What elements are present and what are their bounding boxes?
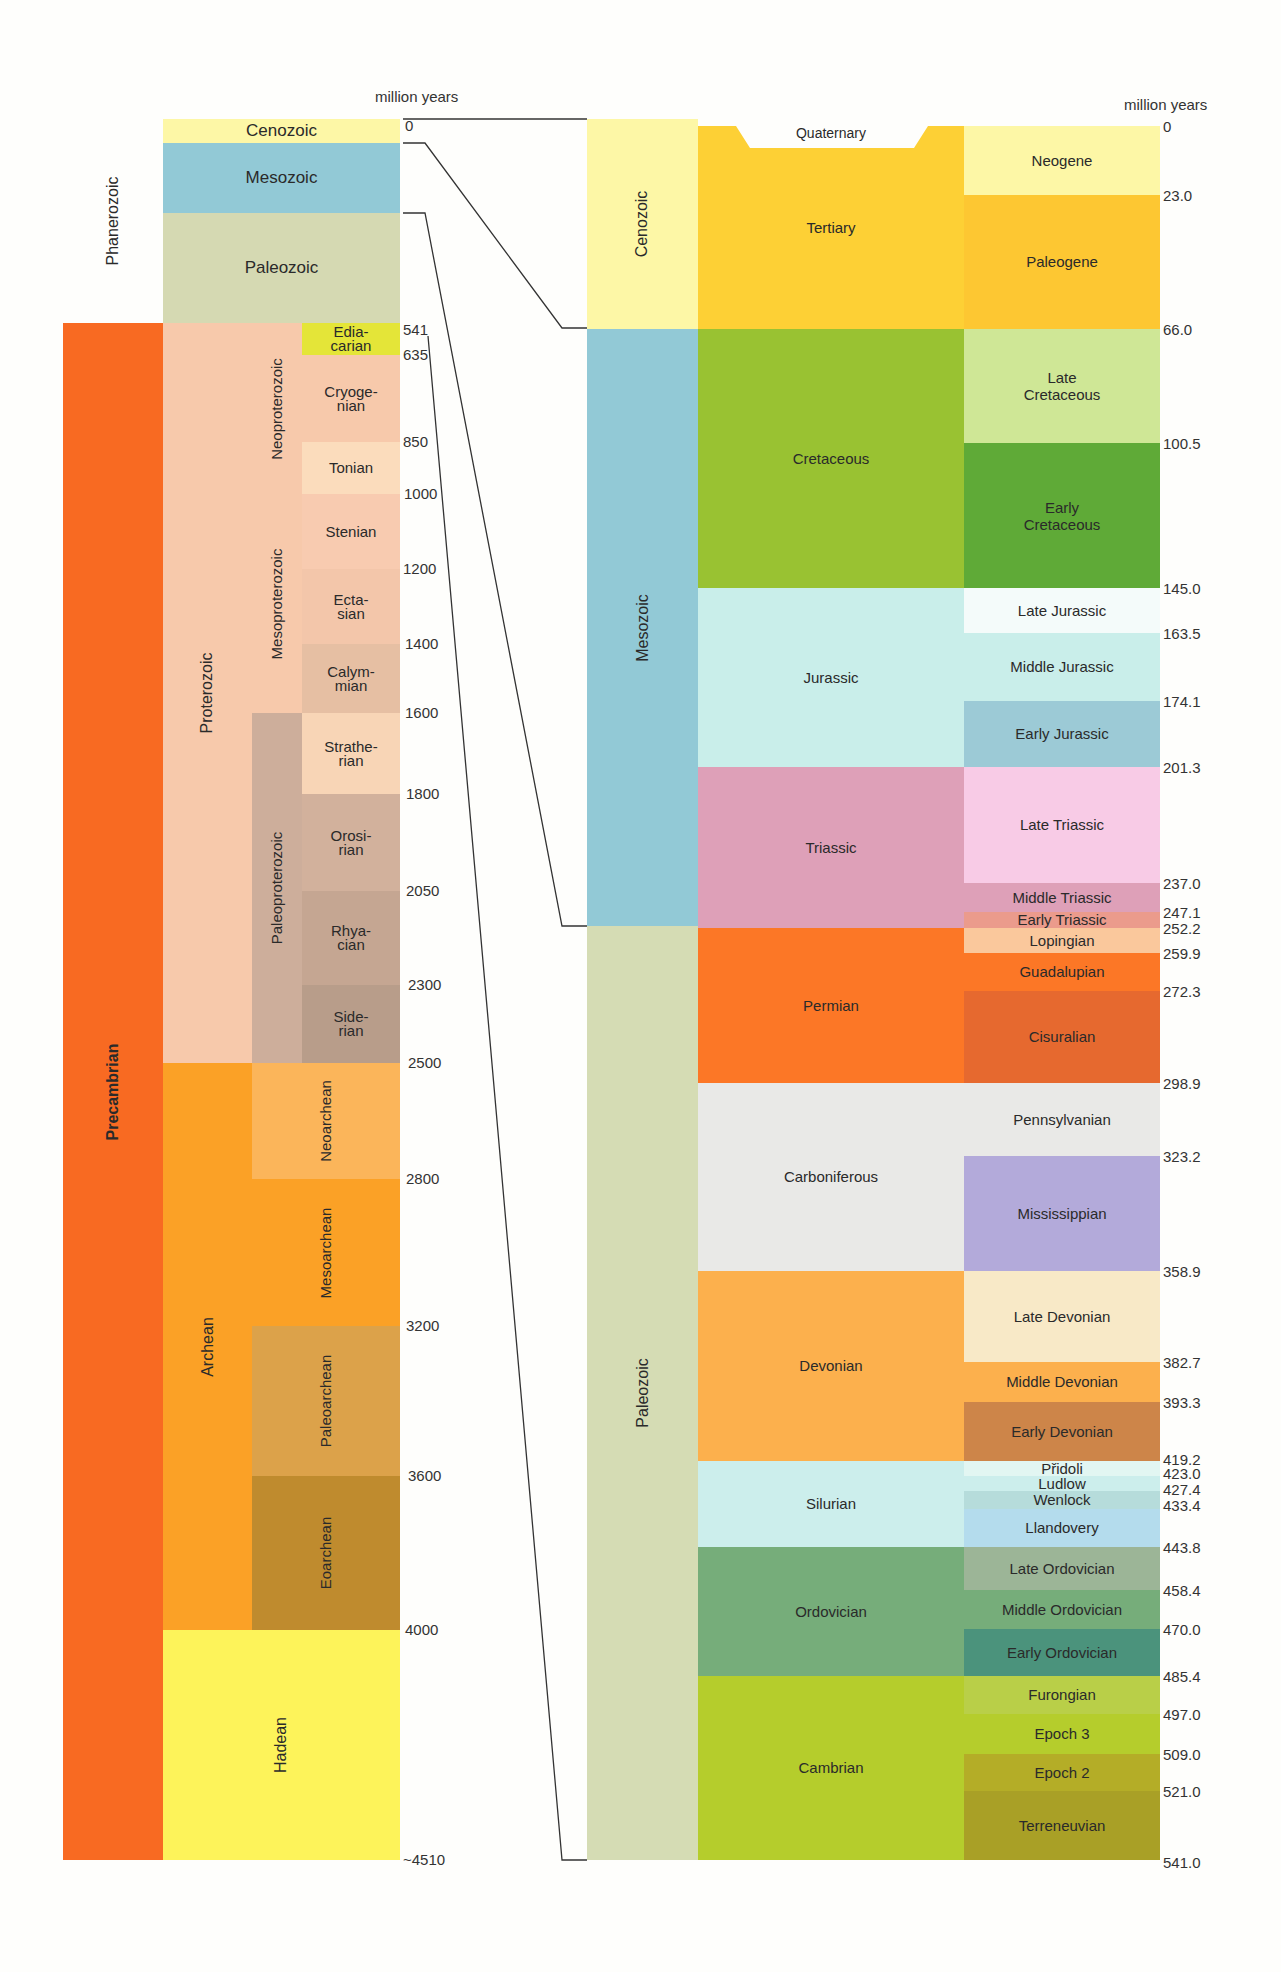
left-tick: 850: [403, 434, 428, 449]
era-mesoproterozoic: Mesoproterozoic: [252, 494, 302, 713]
epoch-mississippian: Mississippian: [964, 1156, 1160, 1271]
period-calymmian: Calym- mian: [302, 644, 400, 713]
epoch-furongian: Furongian: [964, 1676, 1160, 1714]
epoch-paleogene: Paleogene: [964, 195, 1160, 329]
epoch-early-cretaceous: Early Cretaceous: [964, 443, 1160, 588]
right-tick: 443.8: [1163, 1540, 1201, 1555]
epoch-guadalupian: Guadalupian: [964, 953, 1160, 991]
right-tick: 298.9: [1163, 1076, 1201, 1091]
epoch-epoch-3: Epoch 3: [964, 1714, 1160, 1754]
left-tick: 2800: [406, 1171, 439, 1186]
epoch-middle-jurassic: Middle Jurassic: [964, 633, 1160, 701]
epoch-terreneuvian: Terreneuvian: [964, 1791, 1160, 1860]
left-tick: 1800: [406, 786, 439, 801]
epoch-late-jurassic: Late Jurassic: [964, 588, 1160, 633]
era-mesozoic: Mesozoic: [587, 329, 698, 926]
label: Tertiary: [806, 221, 855, 235]
right-tick: 100.5: [1163, 436, 1201, 451]
right-tick: 358.9: [1163, 1264, 1201, 1279]
eon-archean: Archean: [163, 1063, 252, 1630]
epoch-pennsylvanian: Pennsylvanian: [964, 1083, 1160, 1156]
epoch-middle-ordovician: Middle Ordovician: [964, 1590, 1160, 1629]
label: Paleozoic: [636, 1358, 650, 1427]
epoch-pridoli: Přidoli: [964, 1461, 1160, 1476]
epoch-ludlow: Ludlow: [964, 1476, 1160, 1491]
eon-paleozoic: Paleozoic: [163, 213, 400, 323]
label: Mesoarchean: [319, 1207, 333, 1298]
right-tick: 259.9: [1163, 946, 1201, 961]
epoch-late-ordovician: Late Ordovician: [964, 1547, 1160, 1590]
right-tick: 23.0: [1163, 188, 1192, 203]
label: Cambrian: [798, 1761, 863, 1775]
period-tertiary: Tertiary: [698, 126, 964, 329]
left-tick: 4000: [405, 1622, 438, 1637]
period-ordovician: Ordovician: [698, 1547, 964, 1676]
label: Proterozoic: [200, 653, 214, 734]
period-cretaceous: Cretaceous: [698, 329, 964, 588]
epoch-late-devonian: Late Devonian: [964, 1271, 1160, 1362]
right-tick: 470.0: [1163, 1622, 1201, 1637]
epoch-early-devonian: Early Devonian: [964, 1402, 1160, 1461]
right-tick: 201.3: [1163, 760, 1201, 775]
eon-hadean: Hadean: [163, 1630, 400, 1860]
period-permian: Permian: [698, 928, 964, 1083]
label: Jurassic: [803, 671, 858, 685]
epoch-early-jurassic: Early Jurassic: [964, 701, 1160, 767]
epoch-wenlock: Wenlock: [964, 1491, 1160, 1509]
supereon-phanerozoic: Phanerozoic: [63, 119, 163, 323]
label: Silurian: [806, 1497, 856, 1511]
supereon-precambrian: Precambrian: [63, 323, 163, 1860]
right-tick: 497.0: [1163, 1707, 1201, 1722]
period-cambrian: Cambrian: [698, 1676, 964, 1860]
period-quaternary: Quaternary: [750, 122, 912, 144]
left-tick: 2300: [408, 977, 441, 992]
period-ectasian: Ecta- sian: [302, 569, 400, 644]
right-tick: 145.0: [1163, 581, 1201, 596]
epoch-early-ordovician: Early Ordovician: [964, 1629, 1160, 1676]
right-tick: 521.0: [1163, 1784, 1201, 1799]
period-orosirian: Orosi- rian: [302, 794, 400, 891]
period-stenian: Stenian: [302, 494, 400, 569]
right-tick: 433.4: [1163, 1500, 1201, 1512]
label: Neoarchean: [319, 1080, 333, 1162]
period-jurassic: Jurassic: [698, 588, 964, 767]
label: Ordovician: [795, 1605, 867, 1619]
eon-proterozoic: Proterozoic: [163, 323, 252, 1063]
period-carboniferous: Carboniferous: [698, 1083, 964, 1271]
left-tick: 0: [405, 118, 413, 133]
label: Paleoarchean: [319, 1355, 333, 1448]
left-tick: 1600: [405, 705, 438, 720]
right-unit-label: million years: [1124, 96, 1207, 113]
label: Precambrian: [106, 1043, 120, 1140]
period-silurian: Silurian: [698, 1461, 964, 1547]
label: Mesozoic: [635, 594, 649, 662]
label: Cretaceous: [793, 452, 870, 466]
epoch-epoch-2: Epoch 2: [964, 1754, 1160, 1791]
label: Mesoproterozoic: [270, 548, 284, 659]
era-neoproterozoic: Neoproterozoic: [252, 323, 302, 494]
epoch-middle-devonian: Middle Devonian: [964, 1362, 1160, 1402]
period-cryogenian: Cryoge- nian: [302, 355, 400, 442]
label: Paleoproterozoic: [270, 832, 284, 945]
era-paleoarchean: Paleoarchean: [252, 1326, 400, 1476]
label: Eoarchean: [319, 1517, 333, 1590]
label: Paleozoic: [245, 261, 319, 275]
left-tick: 2050: [406, 883, 439, 898]
right-tick: 66.0: [1163, 322, 1192, 337]
label: Phanerozoic: [106, 177, 120, 266]
period-devonian: Devonian: [698, 1271, 964, 1461]
left-tick: 1200: [403, 561, 436, 576]
eon-mesozoic: Mesozoic: [163, 143, 400, 213]
eon-cenozoic: Cenozoic: [163, 119, 400, 143]
epoch-late-triassic: Late Triassic: [964, 767, 1160, 883]
left-tick: 541: [403, 322, 428, 337]
left-tick: 2500: [408, 1055, 441, 1070]
right-tick: 423.0: [1163, 1468, 1201, 1480]
label: Quaternary: [796, 126, 866, 140]
period-siderian: Side- rian: [302, 985, 400, 1063]
right-tick: 163.5: [1163, 626, 1201, 641]
era-paleoproterozoic: Paleoproterozoic: [252, 713, 302, 1063]
left-tick: 1400: [405, 636, 438, 651]
right-tick: 237.0: [1163, 876, 1201, 891]
epoch-cisuralian: Cisuralian: [964, 991, 1160, 1083]
